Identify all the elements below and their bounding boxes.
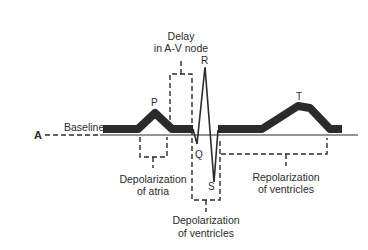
panel-label: A [34, 129, 42, 141]
ventricles-repolarization-label-line2: of ventricles [258, 183, 314, 195]
ecg-trace-qrs-complex [193, 67, 218, 182]
ventricles-depolarization-label-line1: Depolarization [172, 214, 239, 226]
t-wave-label: T [296, 91, 302, 102]
s-wave-label: S [208, 181, 215, 192]
p-wave-label: P [151, 97, 158, 108]
av-delay-label-line1: Delay [168, 30, 196, 42]
ventricles-repolarization-bracket [221, 138, 327, 166]
av-delay-label-line2: in A-V node [154, 42, 208, 54]
atria-depolarization-bracket [140, 137, 167, 168]
av-delay-bracket [170, 60, 192, 128]
ventricles-repolarization-label-line1: Repolarization [252, 171, 319, 183]
q-wave-label: Q [195, 149, 203, 160]
ecg-trace-p-segment [103, 113, 193, 129]
atria-depolarization-label-line1: Depolarization [119, 173, 186, 185]
r-wave-label: R [201, 55, 208, 66]
ventricles-depolarization-label-line2: of ventricles [178, 227, 234, 239]
ecg-trace-t-segment [218, 106, 342, 129]
ecg-diagram: A Baseline P R Q S T Delay in A-V node D… [0, 0, 368, 250]
atria-depolarization-label-line2: of atria [137, 185, 169, 197]
baseline-label: Baseline [64, 121, 104, 133]
